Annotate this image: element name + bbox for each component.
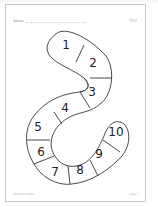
segment-4: 4 [61, 101, 69, 115]
divider-8-9 [90, 160, 98, 176]
divider-1-2 [76, 45, 84, 62]
segment-5: 5 [34, 120, 42, 134]
snake-outline-inner [80, 78, 88, 92]
segment-8: 8 [76, 163, 84, 177]
segment-2: 2 [89, 56, 97, 70]
divider-7-8 [68, 166, 70, 184]
divider-9-10 [103, 140, 120, 152]
segment-1: 1 [62, 38, 70, 52]
number-snake: 1 2 3 4 5 6 7 8 9 10 [0, 0, 158, 207]
segment-6: 6 [37, 145, 45, 159]
segment-7: 7 [51, 165, 59, 179]
segment-10: 10 [108, 125, 123, 139]
segment-9: 9 [95, 147, 103, 161]
segment-3: 3 [88, 85, 96, 99]
